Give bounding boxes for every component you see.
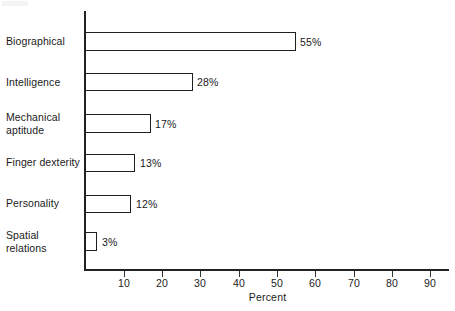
- bar-value-spatial-relations: 3%: [102, 236, 118, 248]
- x-tick-label-10: 10: [109, 277, 139, 289]
- category-label-personality: Personality: [6, 197, 80, 210]
- bar-value-intelligence: 28%: [197, 76, 219, 88]
- category-label-intelligence: Intelligence: [6, 76, 80, 89]
- x-tick-label-30: 30: [185, 277, 215, 289]
- x-axis-title-text: Percent: [249, 291, 287, 303]
- category-label-line: Finger dexterity: [6, 156, 80, 169]
- x-tick-label-90: 90: [415, 277, 445, 289]
- bar-finger-dexterity: [85, 154, 135, 172]
- category-label-mechanical-aptitude: Mechanical aptitude: [6, 111, 80, 136]
- bar-value-biographical: 55%: [300, 36, 322, 48]
- category-label-line: Biographical: [6, 35, 80, 48]
- bar-chart: 10 20 30 40 50 60 70 80 90 Biographical …: [0, 0, 455, 311]
- category-label-line: Personality: [6, 197, 80, 210]
- x-axis-title: Percent: [0, 291, 455, 303]
- category-label-line: relations: [6, 242, 80, 255]
- category-label-line: Intelligence: [6, 76, 80, 89]
- x-tick-label-40: 40: [224, 277, 254, 289]
- category-label-line: Mechanical: [6, 111, 80, 124]
- bar-value-mechanical-aptitude: 17%: [155, 118, 177, 130]
- category-label-line: Spatial: [6, 229, 80, 242]
- x-tick-label-70: 70: [339, 277, 369, 289]
- x-tick-label-20: 20: [147, 277, 177, 289]
- category-label-biographical: Biographical: [6, 35, 80, 48]
- bar-biographical: [85, 32, 296, 51]
- x-axis-line: [84, 269, 449, 271]
- category-label-finger-dexterity: Finger dexterity: [6, 156, 80, 169]
- bar-value-personality: 12%: [136, 198, 158, 210]
- bar-mechanical-aptitude: [85, 114, 151, 133]
- x-tick-label-50: 50: [262, 277, 292, 289]
- x-tick-label-80: 80: [377, 277, 407, 289]
- bar-personality: [85, 195, 131, 213]
- scan-artifact: [2, 1, 28, 6]
- category-label-spatial-relations: Spatial relations: [6, 229, 80, 254]
- bar-value-finger-dexterity: 13%: [140, 157, 162, 169]
- x-tick-label-60: 60: [300, 277, 330, 289]
- bar-intelligence: [85, 73, 193, 91]
- bar-spatial-relations: [85, 232, 97, 251]
- category-label-line: aptitude: [6, 124, 80, 137]
